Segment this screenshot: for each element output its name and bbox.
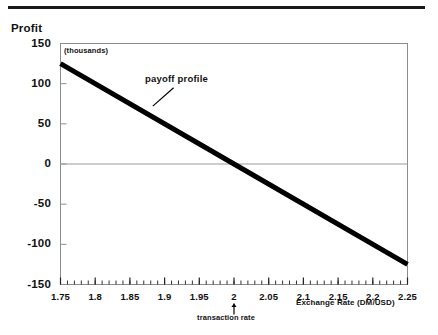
y-tick-label: -150	[5, 278, 51, 290]
chart-screenshot: Profit (thousands) 150100500-50-100-150 …	[0, 0, 438, 335]
y-tick-label: -100	[5, 237, 51, 249]
y-tick-label: 150	[5, 37, 51, 49]
y-tick-label: 0	[5, 157, 51, 169]
top-divider-rule	[8, 6, 425, 9]
y-tick-label: -50	[5, 197, 51, 209]
payoff-profile-annotation: payoff profile	[145, 73, 208, 84]
x-axis-title: Exchange Rate (DM/USD)	[296, 298, 395, 307]
units-note-label: (thousands)	[64, 46, 108, 55]
transaction-rate-label: transaction rate	[166, 313, 286, 322]
y-axis-title: Profit	[11, 22, 42, 34]
y-tick-label: 100	[5, 77, 51, 89]
plot-frame	[60, 43, 408, 285]
y-tick-label: 50	[5, 117, 51, 129]
